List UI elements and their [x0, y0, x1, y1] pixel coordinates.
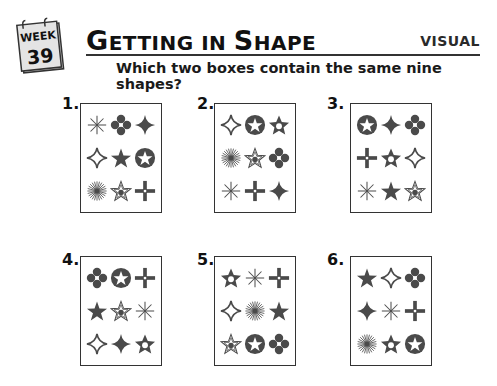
- diamond-star-outline-icon: [85, 327, 109, 360]
- title-part: HAPE: [254, 31, 317, 55]
- star-in-circle-icon: [355, 109, 379, 142]
- quatrefoil-icon: [109, 109, 133, 142]
- box-number: 6.: [327, 250, 344, 269]
- star-outline-dot-icon: [109, 295, 133, 328]
- box-number: 3.: [327, 94, 344, 113]
- diamond-star-outline-icon: [219, 109, 243, 142]
- asterisk-icon: [243, 262, 267, 295]
- shape-box-1[interactable]: [80, 103, 162, 213]
- cross-dot-icon: [133, 174, 157, 207]
- diamond-star-solid-icon: [267, 174, 291, 207]
- asterisk-icon: [133, 295, 157, 328]
- sunburst-icon: [243, 295, 267, 328]
- diamond-star-solid-icon: [133, 109, 157, 142]
- title-divider: [86, 54, 480, 56]
- quatrefoil-icon: [267, 142, 291, 175]
- title-part: ETTING IN: [109, 31, 234, 55]
- diamond-star-solid-icon: [379, 109, 403, 142]
- shape-box-2[interactable]: [214, 103, 296, 213]
- quatrefoil-icon: [267, 327, 291, 360]
- star-in-circle-icon: [403, 327, 427, 360]
- box-number: 5.: [197, 250, 214, 269]
- quatrefoil-icon: [403, 262, 427, 295]
- quatrefoil-icon: [403, 109, 427, 142]
- asterisk-icon: [219, 174, 243, 207]
- category-label: VISUAL: [420, 33, 480, 49]
- star-outline-dot-icon: [219, 327, 243, 360]
- diamond-star-outline-icon: [403, 142, 427, 175]
- asterisk-icon: [85, 109, 109, 142]
- box-number: 1.: [62, 94, 79, 113]
- star-in-circle-icon: [109, 262, 133, 295]
- star-in-circle-icon: [133, 142, 157, 175]
- star-outline-dot-icon: [109, 174, 133, 207]
- star-outline-dot-icon: [243, 142, 267, 175]
- box-number: 2.: [197, 94, 214, 113]
- star-in-circle-icon: [243, 109, 267, 142]
- star-hollow-center-icon: [267, 109, 291, 142]
- star-hollow-center-icon: [219, 262, 243, 295]
- shape-box-6[interactable]: [350, 256, 432, 366]
- star-hollow-center-icon: [379, 142, 403, 175]
- question-text: Which two boxes contain the same nine sh…: [116, 60, 497, 92]
- shape-box-4[interactable]: [80, 256, 162, 366]
- title-part: G: [86, 25, 109, 56]
- week-number: 39: [26, 44, 55, 69]
- cross-dot-icon: [133, 262, 157, 295]
- shape-box-3[interactable]: [350, 103, 432, 213]
- cross-dot-icon: [267, 262, 291, 295]
- diamond-star-outline-icon: [85, 142, 109, 175]
- cross-dot-icon: [243, 174, 267, 207]
- week-calendar-icon: WEEK 39: [14, 15, 68, 75]
- sunburst-icon: [355, 327, 379, 360]
- box-number: 4.: [62, 250, 79, 269]
- diamond-star-solid-icon: [355, 295, 379, 328]
- star-solid-icon: [267, 295, 291, 328]
- star-in-circle-icon: [243, 327, 267, 360]
- star-solid-icon: [85, 295, 109, 328]
- star-solid-icon: [109, 142, 133, 175]
- quatrefoil-icon: [85, 262, 109, 295]
- title-part: S: [234, 25, 254, 56]
- star-outline-dot-icon: [403, 174, 427, 207]
- sunburst-icon: [85, 174, 109, 207]
- diamond-star-outline-icon: [219, 295, 243, 328]
- cross-dot-icon: [355, 142, 379, 175]
- star-solid-icon: [355, 262, 379, 295]
- star-hollow-center-icon: [379, 327, 403, 360]
- diamond-star-solid-icon: [109, 327, 133, 360]
- star-solid-icon: [379, 174, 403, 207]
- page-title: GETTING IN SHAPE: [86, 25, 316, 56]
- cross-dot-icon: [403, 295, 427, 328]
- sunburst-icon: [219, 142, 243, 175]
- asterisk-icon: [379, 295, 403, 328]
- star-hollow-center-icon: [133, 327, 157, 360]
- diamond-star-outline-icon: [379, 262, 403, 295]
- asterisk-icon: [355, 174, 379, 207]
- shape-box-5[interactable]: [214, 256, 296, 366]
